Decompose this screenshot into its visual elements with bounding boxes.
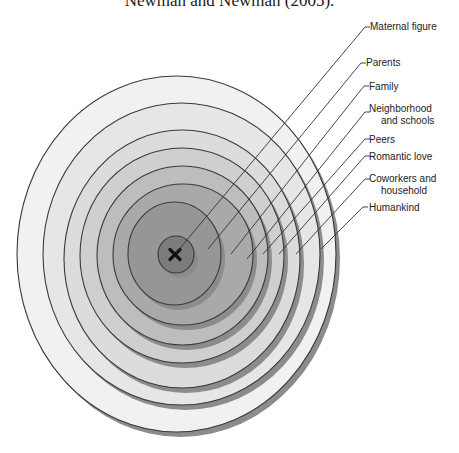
label-romantic-love: Romantic love bbox=[369, 151, 433, 162]
label-maternal-figure: Maternal figure bbox=[370, 21, 437, 32]
label-humankind: Humankind bbox=[369, 202, 420, 213]
label-coworkers-and-household: Coworkers andhousehold bbox=[369, 173, 436, 196]
concentric-circles-diagram: HumankindCoworkers andhouseholdRomantic … bbox=[0, 0, 459, 453]
label-family: Family bbox=[369, 81, 398, 92]
label-neighborhood-and-schools: Neighborhoodand schools bbox=[369, 103, 434, 126]
label-peers: Peers bbox=[369, 134, 395, 145]
label-parents: Parents bbox=[366, 57, 400, 68]
labels-group: HumankindCoworkers andhouseholdRomantic … bbox=[366, 21, 437, 213]
